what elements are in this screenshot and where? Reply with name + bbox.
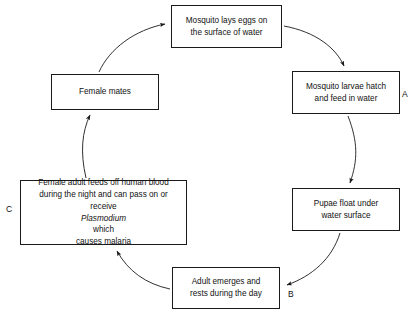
marker-label-a: A: [402, 89, 408, 99]
edge-female-to-eggs: [99, 24, 165, 72]
node-blood-line3: receive Plasmodium which: [38, 201, 168, 237]
node-blood-line3-post: which: [38, 224, 168, 236]
edge-pupae-to-adult: [287, 233, 340, 285]
node-blood-line3-pre: receive: [38, 201, 168, 213]
node-mosquito-larvae-hatch: Mosquito larvae hatch and feed in water: [292, 71, 400, 114]
node-mosquito-lays-eggs: Mosquito lays eggs on the surface of wat…: [171, 5, 282, 48]
node-pupae-line2: water surface: [314, 210, 379, 222]
node-female-adult-feeds: Female adult feeds off human blood durin…: [20, 180, 187, 245]
marker-label-b: B: [288, 289, 294, 299]
node-adult-line1: Adult emerges and: [190, 276, 262, 288]
edge-eggs-to-larvae: [284, 26, 344, 66]
node-blood-line1: Female adult feeds off human blood: [38, 177, 168, 189]
node-eggs-line2: the surface of water: [186, 27, 267, 39]
mosquito-life-cycle-diagram: Mosquito lays eggs on the surface of wat…: [0, 0, 420, 314]
node-pupae-float: Pupae float under water surface: [292, 188, 400, 231]
node-larvae-line1: Mosquito larvae hatch: [306, 81, 386, 93]
edge-blood-to-female: [83, 115, 90, 178]
node-blood-line2: during the night and can pass on or: [38, 189, 168, 201]
node-blood-plasmodium-italic: Plasmodium: [38, 213, 168, 225]
node-female-line1: Female mates: [79, 86, 131, 98]
node-larvae-line2: and feed in water: [306, 93, 386, 105]
node-female-mates: Female mates: [51, 74, 159, 110]
node-adult-line2: rests during the day: [190, 288, 262, 300]
node-eggs-line1: Mosquito lays eggs on: [186, 15, 267, 27]
marker-label-c: C: [6, 204, 12, 214]
node-pupae-line1: Pupae float under: [314, 198, 379, 210]
edge-larvae-to-pupae: [348, 116, 356, 183]
edge-adult-to-blood: [117, 251, 170, 289]
node-blood-line4: causes malaria: [38, 236, 168, 248]
node-adult-emerges: Adult emerges and rests during the day: [172, 267, 280, 309]
